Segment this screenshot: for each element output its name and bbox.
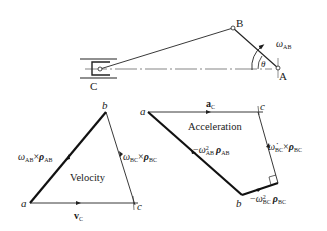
label-a: A bbox=[279, 70, 287, 82]
vel-label-b: b bbox=[102, 99, 108, 111]
arrow-ac-icon bbox=[76, 201, 81, 205]
vel-label-a: a bbox=[21, 197, 27, 209]
acceleration-title: Acceleration bbox=[188, 121, 242, 132]
acc-label-a: a bbox=[140, 105, 146, 117]
vel-bc-label: ωBC×ρBC bbox=[123, 151, 157, 163]
acc-label-c: c bbox=[260, 100, 265, 112]
crank-ba bbox=[233, 28, 278, 68]
pin-b bbox=[231, 26, 235, 30]
vel-ab-label: ωAB×ρAB bbox=[18, 151, 53, 163]
arrow-b-corner-icon bbox=[256, 188, 262, 192]
kinematics-diagram: B A C θ ωAB a b c Velocity ωAB×ρAB ωBC×ρ… bbox=[0, 0, 327, 231]
vel-ac-label: vC bbox=[74, 210, 83, 222]
arrow-ac-icon bbox=[206, 110, 211, 114]
label-b: B bbox=[236, 17, 243, 29]
acc-label-b: b bbox=[236, 197, 242, 209]
acc-ac-label: aC bbox=[206, 98, 215, 110]
acc-ab-label: −ω2ABρAB bbox=[193, 144, 230, 156]
acceleration-polygon: a c b Acceleration aC −ω2ABρAB ω̇BC×ρBC … bbox=[140, 98, 302, 209]
acc-b-corner-label: −ω2BCρBC bbox=[250, 193, 286, 205]
pin-c bbox=[98, 67, 102, 71]
velocity-title: Velocity bbox=[70, 172, 106, 183]
label-omega-ab: ωAB bbox=[276, 38, 291, 50]
label-theta: θ bbox=[261, 59, 266, 69]
vel-label-c: c bbox=[137, 200, 142, 212]
connecting-rod-cb bbox=[100, 28, 233, 69]
mechanism: B A C θ ωAB bbox=[80, 17, 291, 92]
velocity-polygon: a b c Velocity ωAB×ρAB ωBC×ρBC vC bbox=[18, 99, 157, 222]
label-c: C bbox=[90, 80, 97, 92]
acc-c-corner-label: ω̇BC×ρBC bbox=[268, 141, 302, 153]
